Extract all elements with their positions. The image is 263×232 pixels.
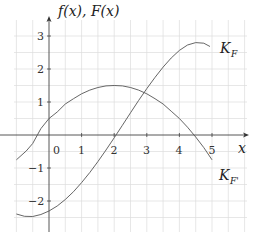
chart: 0 1 2 3 4 5 3 2 1 −1 −2 f(x), F(x) x K F…: [0, 0, 263, 232]
y-axis-label: f(x), F(x): [57, 3, 119, 19]
x-tick-2: 2: [111, 144, 118, 157]
y-tick-neg1: −1: [28, 162, 44, 175]
x-tick-labels: 0 1 2 3 4 5: [53, 144, 216, 157]
y-tick-neg2: −2: [28, 195, 44, 208]
x-tick-3: 3: [143, 144, 150, 157]
y-tick-2: 2: [37, 63, 44, 76]
x-tick-1: 1: [78, 144, 85, 157]
label-k-f-sub: F: [230, 49, 238, 59]
label-k-f-prime-sub: F': [229, 176, 239, 186]
x-tick-0: 0: [53, 144, 60, 157]
x-axis-label: x: [238, 140, 246, 156]
y-tick-3: 3: [37, 30, 44, 43]
x-tick-4: 4: [176, 144, 183, 157]
y-tick-labels: 3 2 1 −1 −2: [28, 30, 44, 208]
x-tick-5: 5: [209, 144, 216, 157]
y-tick-1: 1: [37, 96, 44, 109]
